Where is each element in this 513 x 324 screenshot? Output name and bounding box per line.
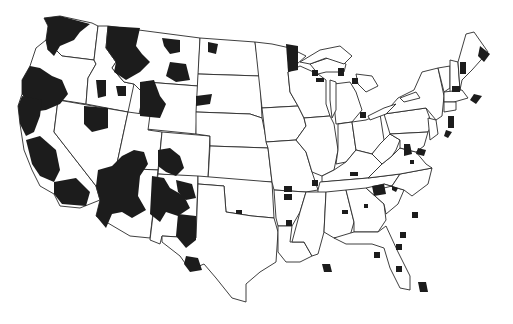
region-la-delta — [322, 264, 332, 272]
region-tn-east — [372, 184, 386, 196]
region-wi-spot2 — [316, 78, 324, 82]
region-mi-low2 — [360, 112, 366, 118]
region-mi-low1 — [352, 78, 358, 84]
region-ga-spot — [364, 204, 368, 208]
us-map — [0, 0, 513, 324]
state-florida — [334, 226, 410, 290]
region-ar-spot1 — [284, 194, 292, 200]
state-north-dakota — [198, 38, 260, 76]
region-al-spot — [342, 210, 348, 214]
region-de-spot — [444, 130, 452, 138]
region-nj-spot — [448, 116, 454, 128]
region-wi-spot1 — [312, 70, 318, 76]
state-kansas — [208, 146, 272, 182]
state-connecticut — [444, 102, 456, 112]
lake-lake-michigan — [330, 80, 336, 118]
region-ga-coast1 — [400, 232, 406, 238]
region-ga-coast2 — [396, 244, 402, 250]
region-fl-south — [418, 282, 428, 292]
region-wv-spot — [410, 160, 414, 164]
region-nh-spot — [460, 62, 466, 74]
region-mo-spot1 — [284, 186, 292, 192]
region-ma-east — [470, 94, 482, 104]
state-michigan — [334, 82, 362, 124]
region-ar-spot2 — [286, 220, 292, 226]
region-ok-spot — [236, 210, 242, 214]
state-new-jersey — [428, 118, 438, 140]
region-mi-up — [338, 68, 344, 76]
region-fl-panhandle — [374, 252, 380, 258]
region-sc-spot — [412, 212, 418, 218]
state-boundaries — [18, 16, 488, 302]
region-ky-spot — [350, 172, 358, 176]
region-mo-spot2 — [312, 180, 318, 186]
region-mn-north — [286, 44, 298, 72]
region-vt-spot — [452, 86, 460, 92]
lake-lake-huron — [356, 74, 378, 92]
region-fl-gulf — [396, 266, 402, 272]
